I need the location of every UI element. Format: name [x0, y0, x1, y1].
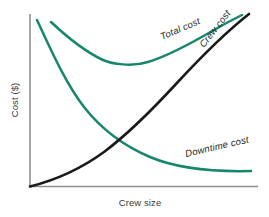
chart-figure: Total cost Crew cost Downtime cost Cost …: [0, 0, 269, 217]
y-axis-label: Cost ($): [9, 83, 20, 118]
chart-canvas: Total cost Crew cost Downtime cost Cost …: [0, 0, 269, 217]
x-axis-label: Crew size: [119, 197, 162, 208]
y-axis-label-group: Cost ($): [9, 83, 20, 118]
